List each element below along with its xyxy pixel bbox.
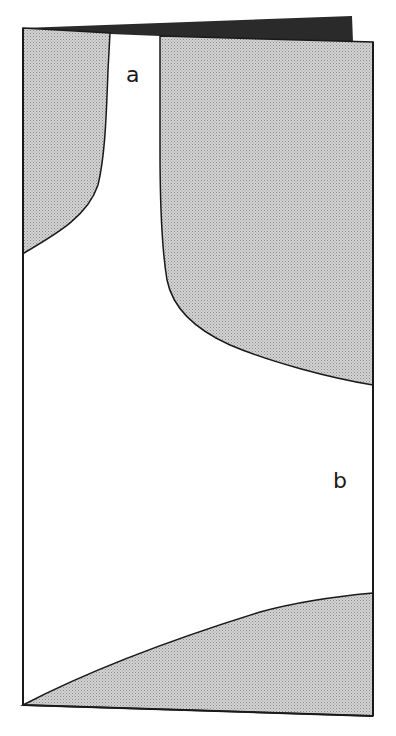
- bottom-shaded-region: [23, 593, 373, 716]
- diagram-canvas: [0, 0, 396, 736]
- label-b: b: [333, 470, 347, 492]
- upper-right-shaded-region: [160, 36, 373, 385]
- label-a: a: [126, 64, 139, 86]
- upper-left-shaded-region: [23, 28, 110, 253]
